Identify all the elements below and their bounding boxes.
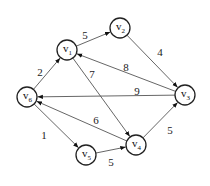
edge-weight-label: 1 [41, 129, 47, 141]
node-v2: v2 [110, 18, 130, 38]
edge-arrow [96, 147, 126, 153]
edge-arrow [37, 101, 127, 141]
edge-weight-label: 6 [93, 114, 99, 126]
edge-v5-v4 [96, 147, 126, 153]
edge-weight-label: 5 [167, 124, 173, 136]
node-v5: v5 [76, 145, 96, 165]
edge-arrow [37, 95, 175, 97]
edge-weight-label: 8 [123, 61, 129, 73]
edge-weight-label: 4 [157, 46, 163, 58]
edge-weight-label: 7 [89, 68, 95, 80]
edge-weight-label: 5 [82, 29, 88, 41]
edge-weight-label: 2 [37, 66, 43, 78]
node-v1: v1 [57, 40, 77, 60]
nodes-layer: v1v2v3v4v5v6 [17, 18, 195, 165]
edge-arrow [34, 104, 78, 148]
edge-arrow [127, 35, 178, 87]
edge-arrow [73, 58, 130, 136]
node-v4: v4 [126, 135, 146, 155]
edge-v4-v6 [37, 101, 127, 141]
edge-weight-label: 5 [108, 156, 114, 168]
node-v6: v6 [17, 87, 37, 107]
edges-layer [33, 32, 177, 153]
edge-v6-v5 [34, 104, 78, 148]
edge-weight-label: 9 [134, 85, 140, 97]
edge-v2-v3 [127, 35, 178, 87]
directed-graph: 2548976155 v1v2v3v4v5v6 [0, 0, 210, 186]
edge-v1-v4 [73, 58, 130, 136]
edge-v3-v6 [37, 95, 175, 97]
node-v3: v3 [175, 85, 195, 105]
